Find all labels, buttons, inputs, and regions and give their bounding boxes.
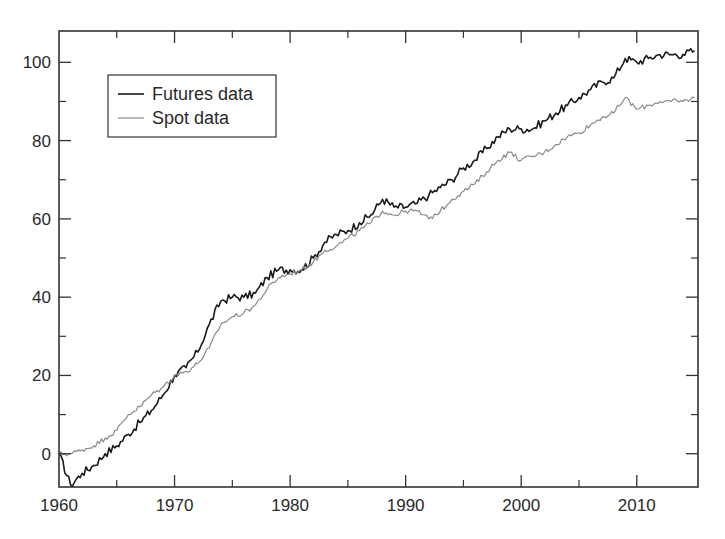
legend-spot-label: Spot data (152, 108, 230, 128)
legend-futures-label: Futures data (152, 84, 254, 104)
x-tick-label: 2000 (502, 496, 540, 515)
y-tick-label: 80 (32, 132, 51, 151)
y-tick-label: 40 (32, 288, 51, 307)
y-tick-label: 60 (32, 210, 51, 229)
x-tick-label: 1970 (156, 496, 194, 515)
y-tick-label: 0 (42, 445, 51, 464)
x-tick-label: 1980 (271, 496, 309, 515)
line-chart: 020406080100 196019701980199020002010 Fu… (0, 0, 725, 539)
x-tick-label: 1990 (387, 496, 425, 515)
x-tick-label: 2010 (618, 496, 656, 515)
y-tick-label: 20 (32, 366, 51, 385)
x-tick-label: 1960 (40, 496, 78, 515)
y-tick-label: 100 (23, 53, 51, 72)
legend: Futures data Spot data (108, 75, 276, 137)
spot-data-line (59, 97, 695, 456)
